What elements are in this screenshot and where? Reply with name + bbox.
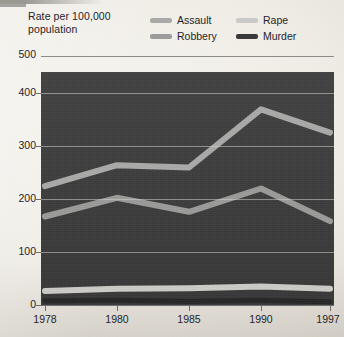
x-axis-line: [41, 305, 334, 306]
x-tick-label-1985: 1985: [166, 313, 212, 325]
x-tick-label-1997: 1997: [305, 313, 344, 325]
line-chart: 500 400 300 200 100 0 1978: [0, 0, 344, 337]
y-tick-label-500: 500: [2, 48, 36, 60]
y-tick-label-200: 200: [2, 192, 36, 204]
y-axis-labels: 500 400 300 200 100 0: [0, 0, 36, 337]
x-tick-mark-1997: [330, 306, 331, 311]
x-tick-label-1978: 1978: [22, 313, 68, 325]
x-tick-label-1980: 1980: [94, 313, 140, 325]
x-tick-mark-1990: [261, 306, 262, 311]
gridline-300: [41, 146, 334, 147]
gridline-500: [41, 56, 334, 57]
y-tick-label-300: 300: [2, 139, 36, 151]
x-tick-mark-1978: [45, 306, 46, 311]
x-tick-mark-1985: [189, 306, 190, 311]
series-line-robbery: [45, 189, 330, 222]
gridline-100: [41, 252, 334, 253]
x-tick-mark-1980: [117, 306, 118, 311]
gridline-200: [41, 199, 334, 200]
series-line-murder: [45, 300, 330, 301]
y-tick-label-400: 400: [2, 86, 36, 98]
series-line-rape: [45, 286, 330, 291]
y-tick-label-0: 0: [2, 298, 36, 310]
gridline-400: [41, 93, 334, 94]
y-tick-label-100: 100: [2, 245, 36, 257]
series-canvas: [41, 72, 334, 305]
plot-area: [41, 72, 334, 305]
series-line-assault: [45, 109, 330, 186]
x-tick-label-1990: 1990: [238, 313, 284, 325]
